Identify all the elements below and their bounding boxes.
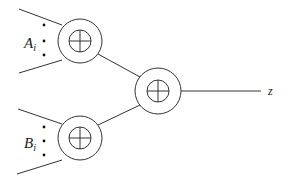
label-z: z (267, 84, 273, 98)
input-line-b-bottom (17, 160, 62, 174)
input-line-a-bottom (19, 60, 62, 73)
adder-node-output (135, 68, 181, 114)
connector-bottom-to-out (98, 105, 140, 125)
label-a: Ai (23, 35, 36, 53)
adder-node-top (58, 19, 102, 63)
label-b: Bi (24, 135, 36, 153)
ellipsis-dots-a (43, 24, 46, 57)
adder-node-bottom (58, 116, 102, 160)
ellipsis-dots-b (43, 126, 46, 157)
adder-tree-diagram: Ai Bi z (0, 0, 291, 184)
input-line-a-top (19, 9, 62, 25)
connector-top-to-out (98, 54, 140, 77)
input-line-b-top (18, 109, 62, 124)
